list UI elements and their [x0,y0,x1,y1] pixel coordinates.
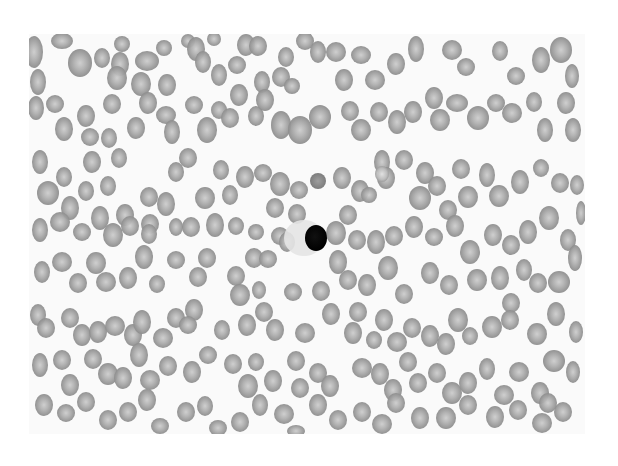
red-blood-cell [37,181,59,205]
cell-field [29,34,585,434]
red-blood-cell [509,362,529,382]
red-blood-cell [387,332,407,352]
red-blood-cell [119,402,137,422]
red-blood-cell [158,74,176,96]
red-blood-cell [351,46,371,64]
red-blood-cell [266,319,284,341]
red-blood-cell [284,283,302,301]
red-blood-cell [436,407,456,429]
red-blood-cell [169,218,183,236]
red-blood-cell [271,111,291,139]
red-blood-cell [310,173,326,189]
red-blood-cell [121,216,139,236]
red-blood-cell [198,248,216,268]
red-blood-cell [127,117,145,139]
red-blood-cell [566,361,580,383]
red-blood-cell [135,51,159,71]
red-blood-cell [32,150,48,174]
red-blood-cell [361,187,377,203]
red-blood-cell [442,40,462,60]
red-blood-cell [227,266,245,286]
red-blood-cell [105,316,125,336]
red-blood-cell [411,407,429,429]
red-blood-cell [467,269,487,291]
red-blood-cell [34,261,50,283]
red-blood-cell [375,309,393,331]
red-blood-cell [486,406,504,428]
red-blood-cell [395,150,413,170]
red-blood-cell [164,120,180,144]
red-blood-cell [89,321,107,343]
red-blood-cell [114,367,132,389]
red-blood-cell [238,314,256,336]
red-blood-cell [568,245,582,271]
red-blood-cell [409,186,431,210]
red-blood-cell [548,271,570,293]
red-blood-cell [467,106,489,130]
red-blood-cell [295,323,315,343]
red-blood-cell [507,67,525,85]
red-blood-cell [248,353,264,371]
red-blood-cell [312,281,330,301]
red-blood-cell [270,172,290,196]
red-blood-cell [366,331,382,349]
red-blood-cell [86,252,106,274]
red-blood-cell [446,94,468,112]
red-blood-cell [385,226,403,246]
red-blood-cell [103,94,121,114]
red-blood-cell [408,36,424,62]
red-blood-cell [437,333,455,355]
red-blood-cell [421,262,439,284]
red-blood-cell [53,350,71,370]
red-blood-cell [309,105,331,129]
red-blood-cell [179,316,197,334]
red-blood-cell [141,224,157,244]
red-blood-cell [550,37,572,63]
red-blood-cell [532,47,550,73]
red-blood-cell [375,166,389,182]
red-blood-cell [214,320,230,340]
red-blood-cell [50,212,70,232]
red-blood-cell [442,382,462,404]
red-blood-cell [259,250,277,268]
red-blood-cell [156,40,172,56]
red-blood-cell [452,159,470,179]
red-blood-cell [57,404,75,422]
red-blood-cell [177,402,195,422]
red-blood-cell [159,356,177,376]
red-blood-cell [55,117,73,141]
red-blood-cell [404,101,422,123]
red-blood-cell [238,374,258,398]
red-blood-cell [94,48,110,68]
red-blood-cell [428,176,446,196]
red-blood-cell [185,96,203,114]
red-blood-cell [428,363,446,383]
red-blood-cell [309,394,327,416]
red-blood-cell [543,350,565,372]
red-blood-cell [367,230,385,254]
red-blood-cell [195,187,215,209]
red-blood-cell [494,385,514,405]
red-blood-cell [527,323,547,345]
red-blood-cell [371,363,389,385]
red-blood-cell [211,64,227,86]
red-blood-cell [388,110,406,134]
red-blood-cell [310,41,326,63]
red-blood-cell [565,64,579,88]
red-blood-cell [448,308,468,332]
red-blood-cell [254,164,272,182]
red-blood-cell [96,272,116,292]
red-blood-cell [119,267,137,289]
red-blood-cell [387,393,405,413]
red-blood-cell [140,370,160,390]
red-blood-cell [533,159,549,177]
red-blood-cell [501,310,519,330]
red-blood-cell [516,259,532,281]
red-blood-cell [133,310,151,334]
red-blood-cell [107,66,127,90]
red-blood-cell [399,352,417,372]
red-blood-cell [99,410,117,430]
red-blood-cell [248,224,264,240]
red-blood-cell [344,322,362,344]
red-blood-cell [213,160,229,180]
